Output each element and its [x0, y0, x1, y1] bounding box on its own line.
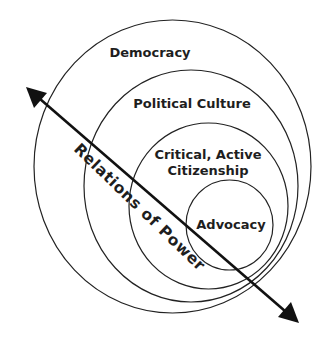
- citizenship-label-line2: Citizenship: [167, 163, 248, 178]
- critical-active-label-line1: Critical, Active: [154, 147, 261, 162]
- relations-of-power-arrow-line: [36, 96, 289, 315]
- arrowhead-up-left-icon: [26, 87, 47, 108]
- arrowhead-down-right-icon: [278, 302, 299, 323]
- nested-circles-diagram: Democracy Political Culture Critical, Ac…: [0, 0, 324, 343]
- political-culture-label: Political Culture: [133, 96, 251, 111]
- democracy-label: Democracy: [109, 45, 191, 60]
- advocacy-label: Advocacy: [196, 217, 266, 232]
